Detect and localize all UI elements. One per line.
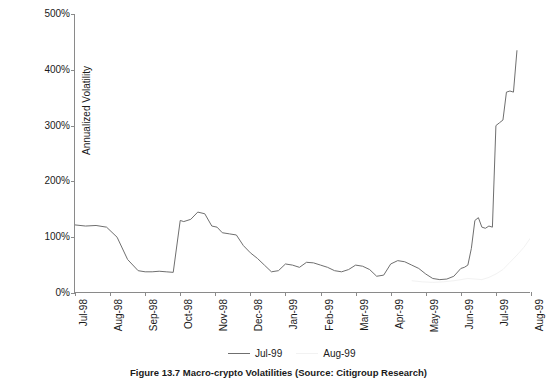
legend-label: Jul-99 <box>255 348 282 359</box>
legend-label: Aug-99 <box>323 348 355 359</box>
x-tick-mark <box>426 292 427 296</box>
x-tick-mark <box>180 292 181 296</box>
x-tick-mark <box>391 292 392 296</box>
x-tick-mark <box>250 292 251 296</box>
plot-inner <box>75 14 530 292</box>
chart-svg <box>75 14 530 292</box>
x-tick-label: Aug-98 <box>114 299 124 331</box>
x-tick-mark <box>215 292 216 296</box>
x-tick-label: Mar-99 <box>360 299 370 331</box>
series-line-2 <box>412 237 530 282</box>
x-tick-mark <box>145 292 146 296</box>
x-tick-label: Nov-98 <box>219 299 229 331</box>
x-tick-label: Oct-98 <box>184 299 194 329</box>
y-tick-label: 500% <box>44 9 70 19</box>
chart-legend: Jul-99Aug-99 <box>228 348 356 359</box>
legend-item: Jul-99 <box>228 348 282 359</box>
y-tick-label: 300% <box>44 121 70 131</box>
figure-caption: Figure 13.7 Macro-crypto Volatilities (S… <box>0 367 557 378</box>
plot-area: 0%100%200%300%400%500% Jul-98Aug-98Sep-9… <box>74 14 530 293</box>
y-tick-mark <box>71 237 75 238</box>
x-tick-label: Sep-98 <box>149 299 159 331</box>
x-tick-label: Apr-99 <box>395 299 405 329</box>
x-tick-label: Jun-99 <box>465 299 475 330</box>
x-tick-label: Jan-99 <box>289 299 299 330</box>
x-tick-label: Dec-98 <box>254 299 264 331</box>
y-tick-mark <box>71 14 75 15</box>
x-tick-mark <box>531 292 532 296</box>
legend-item: Aug-99 <box>296 348 355 359</box>
x-tick-mark <box>75 292 76 296</box>
x-tick-mark <box>496 292 497 296</box>
x-tick-label: Jul-98 <box>79 299 89 326</box>
x-tick-mark <box>110 292 111 296</box>
x-tick-label: Feb-99 <box>325 299 335 331</box>
y-tick-label: 200% <box>44 176 70 186</box>
x-tick-mark <box>356 292 357 296</box>
y-tick-mark <box>71 70 75 71</box>
x-tick-mark <box>321 292 322 296</box>
y-tick-mark <box>71 126 75 127</box>
y-tick-label: 0% <box>56 288 70 298</box>
x-tick-label: Aug-99 <box>535 299 545 331</box>
legend-swatch <box>296 353 318 354</box>
y-tick-mark <box>71 181 75 182</box>
x-tick-label: May-99 <box>430 299 440 332</box>
y-tick-label: 400% <box>44 65 70 75</box>
y-tick-label: 100% <box>44 232 70 242</box>
x-tick-label: Jul-99 <box>500 299 510 326</box>
x-tick-mark <box>461 292 462 296</box>
x-tick-mark <box>285 292 286 296</box>
legend-swatch <box>228 353 250 354</box>
series-line-1 <box>75 50 517 279</box>
